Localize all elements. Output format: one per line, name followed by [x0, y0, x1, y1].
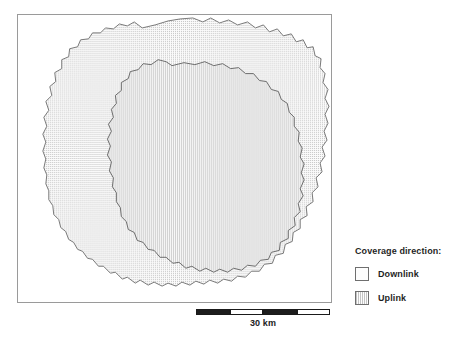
legend-label-downlink: Downlink	[378, 269, 419, 279]
coverage-polygon-uplink	[107, 60, 304, 273]
legend: Coverage direction: Downlink Uplink	[355, 246, 450, 314]
scale-bar-label: 30 km	[196, 318, 330, 328]
map-canvas	[18, 15, 331, 302]
legend-swatch-downlink-icon	[355, 267, 369, 281]
map-frame	[17, 14, 332, 303]
scale-bar-segment-3	[297, 309, 330, 315]
coverage-map-figure: 30 km Coverage direction: Downlink Uplin…	[0, 0, 453, 345]
scale-bar-segment-2	[263, 309, 297, 315]
scale-bar	[196, 309, 330, 315]
scale-bar-segment-0	[196, 309, 230, 315]
legend-label-uplink: Uplink	[378, 293, 406, 303]
legend-item-uplink[interactable]: Uplink	[355, 290, 450, 305]
legend-item-downlink[interactable]: Downlink	[355, 266, 450, 281]
legend-title: Coverage direction:	[355, 246, 450, 256]
scale-bar-segment-1	[230, 309, 263, 315]
legend-swatch-uplink-icon	[355, 291, 369, 305]
